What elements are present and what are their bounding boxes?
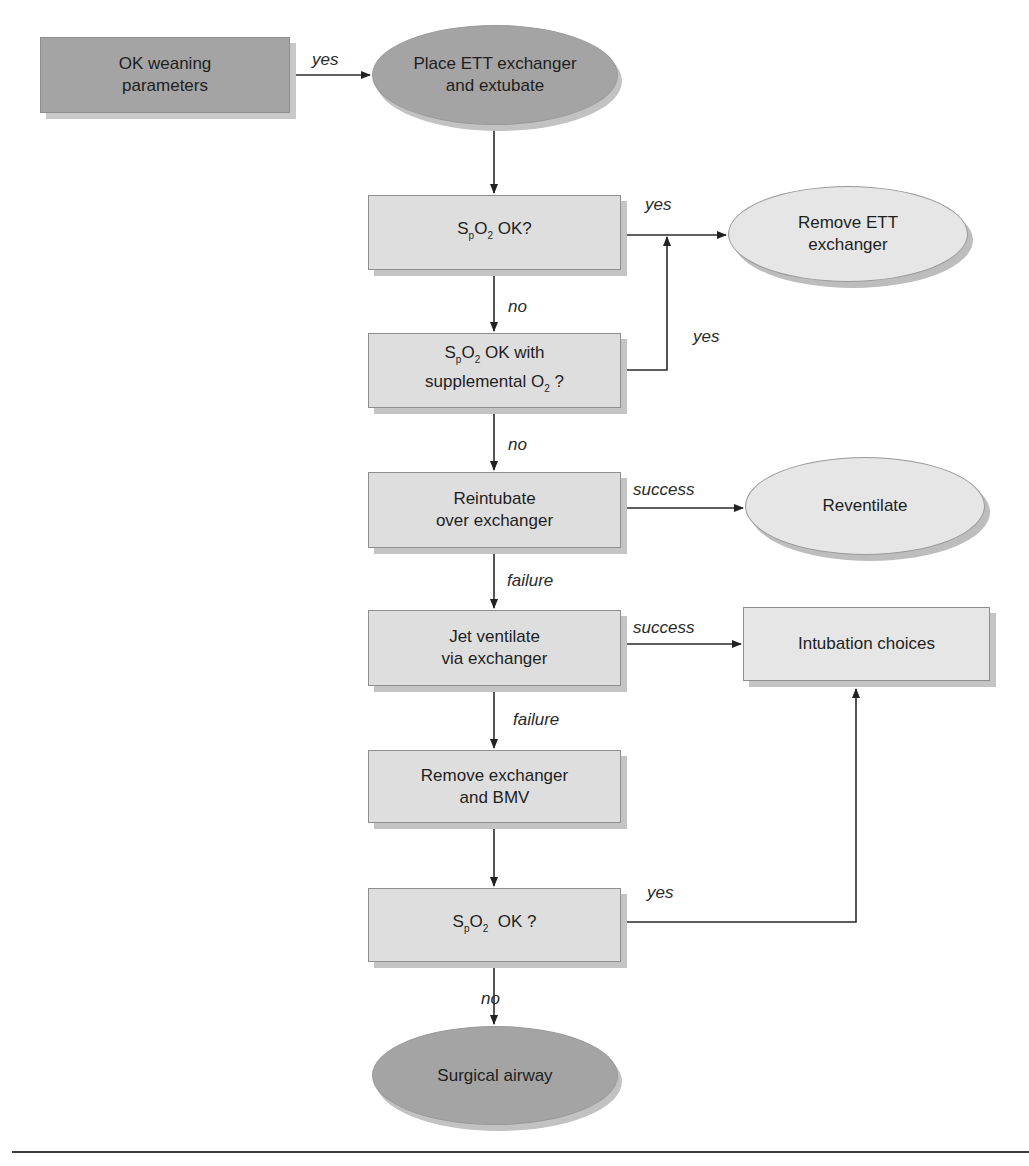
node-text: parameters xyxy=(122,76,208,95)
node-spo2-ok-supplemental: SpO2 OK withsupplemental O2 ? xyxy=(368,333,621,408)
edge-label-success: success xyxy=(633,480,694,500)
node-text: exchanger xyxy=(808,235,887,254)
node-spo2-ok: SpO2 OK? xyxy=(368,195,621,270)
edge-label-yes: yes xyxy=(647,883,673,903)
edge-label-no: no xyxy=(508,297,527,317)
node-text: Reventilate xyxy=(822,495,907,517)
node-ok-weaning-parameters: OK weaningparameters xyxy=(40,37,290,113)
node-reventilate: Reventilate xyxy=(745,457,985,555)
node-reintubate: Reintubateover exchanger xyxy=(368,472,621,548)
node-text: Intubation choices xyxy=(798,633,935,655)
node-text: and extubate xyxy=(446,76,544,95)
node-intubation-choices: Intubation choices xyxy=(743,607,990,681)
node-text: OK? xyxy=(493,219,532,238)
node-text: S xyxy=(457,219,468,238)
node-text: Remove ETT xyxy=(798,213,898,232)
node-text: OK weaning xyxy=(119,54,212,73)
edge-label-no: no xyxy=(481,989,500,1009)
node-text: O xyxy=(461,343,474,362)
node-text: supplemental O xyxy=(425,372,544,391)
edge-label-yes: yes xyxy=(312,50,338,70)
node-text: S xyxy=(453,912,464,931)
bottom-rule-divider xyxy=(12,1151,1029,1153)
node-text: Remove exchanger xyxy=(421,766,568,785)
node-jet-ventilate: Jet ventilatevia exchanger xyxy=(368,610,621,686)
node-text: Reintubate xyxy=(453,489,535,508)
edge-label-success: success xyxy=(633,618,694,638)
node-surgical-airway: Surgical airway xyxy=(372,1026,618,1125)
edge-label-no: no xyxy=(508,435,527,455)
edge-label-yes: yes xyxy=(693,327,719,347)
node-remove-exchanger-bmv: Remove exchangerand BMV xyxy=(368,750,621,823)
node-text: O xyxy=(474,219,487,238)
node-text: OK ? xyxy=(488,912,536,931)
flowchart-canvas: OK weaningparameters Place ETT exchanger… xyxy=(0,0,1029,1166)
node-text: OK with xyxy=(480,343,544,362)
node-text: Surgical airway xyxy=(437,1065,552,1087)
node-spo2-ok-final: SpO2 OK ? xyxy=(368,888,621,962)
edge-label-failure: failure xyxy=(475,571,553,591)
node-text: Jet ventilate xyxy=(449,627,540,646)
edge-supp-to-remove-ett xyxy=(623,237,667,370)
node-text: ? xyxy=(550,372,564,391)
node-text: O xyxy=(469,912,482,931)
node-text: via exchanger xyxy=(442,649,548,668)
edge-label-yes: yes xyxy=(645,195,671,215)
edge-label-failure: failure xyxy=(481,710,559,730)
node-text: over exchanger xyxy=(436,511,553,530)
node-text: S xyxy=(445,343,456,362)
node-remove-ett-exchanger: Remove ETTexchanger xyxy=(728,186,968,282)
node-text: and BMV xyxy=(460,788,530,807)
node-place-ett-exchanger: Place ETT exchangerand extubate xyxy=(372,25,618,125)
node-text: Place ETT exchanger xyxy=(413,54,576,73)
